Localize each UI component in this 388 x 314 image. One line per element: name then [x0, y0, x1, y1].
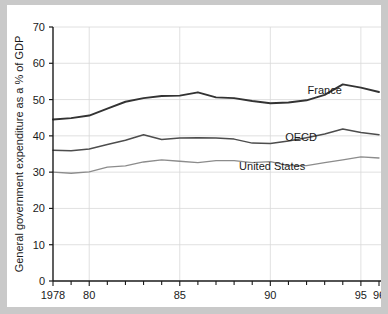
- y-tick-label: 40: [33, 130, 45, 142]
- x-tick-label: 1978: [41, 289, 65, 301]
- x-tick-label: 85: [174, 289, 186, 301]
- chart-background: [7, 5, 381, 307]
- series-label-oecd: OECD: [285, 131, 317, 143]
- y-axis-title: General government expenditure as a % of…: [13, 36, 25, 273]
- figure-panel: 01020304050607019788085909596 FranceOECD…: [7, 5, 381, 307]
- y-axis-title-text: General government expenditure as a % of…: [13, 36, 25, 273]
- y-tick-label: 70: [33, 21, 45, 33]
- y-tick-label: 30: [33, 166, 45, 178]
- x-tick-label: 80: [83, 289, 95, 301]
- y-tick-label: 10: [33, 239, 45, 251]
- line-chart: 01020304050607019788085909596 FranceOECD…: [7, 5, 381, 307]
- y-tick-label: 50: [33, 94, 45, 106]
- series-label-united-states: United States: [239, 160, 306, 172]
- x-tick-label: 90: [264, 289, 276, 301]
- x-tick-label: 96: [373, 289, 381, 301]
- y-tick-label: 20: [33, 202, 45, 214]
- y-tick-label: 60: [33, 57, 45, 69]
- x-tick-label: 95: [355, 289, 367, 301]
- series-label-france: France: [308, 84, 342, 96]
- y-tick-label: 0: [39, 275, 45, 287]
